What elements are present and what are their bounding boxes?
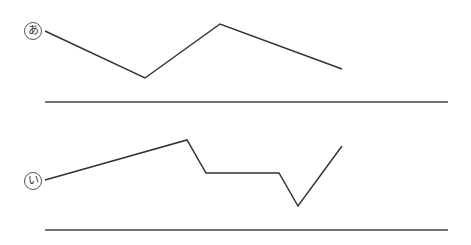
polyline-i — [45, 140, 342, 206]
figure-label-a: あ — [24, 22, 42, 40]
diagram-canvas — [0, 0, 471, 245]
polyline-a — [45, 24, 342, 78]
figure-label-i: い — [24, 172, 42, 190]
